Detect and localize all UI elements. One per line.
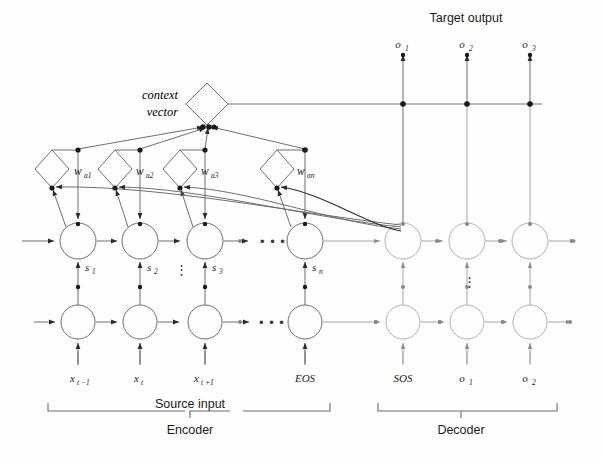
attention-weight-1-sub: a2: [146, 171, 154, 180]
encoder-vertical-ellipsis: ⋮: [175, 262, 189, 277]
attention-weight-0-sub: a1: [84, 171, 92, 180]
input-label-0-sub: t −1: [77, 378, 90, 387]
encoder-label: Encoder: [167, 423, 214, 437]
source-input-label: Source input: [155, 397, 226, 411]
hidden-row-ellipsis: • • •: [260, 234, 286, 249]
input-label-4-base: SOS: [394, 372, 413, 384]
input-label-1-base: x: [133, 372, 139, 384]
input-label-0-base: x: [69, 372, 75, 384]
attention-weight-3-sub: an: [307, 171, 315, 180]
input-label-2-base: x: [193, 372, 199, 384]
input-label-6-base: o: [522, 372, 528, 384]
context-vector-label-line1: context: [142, 88, 179, 102]
target-output-0-base: o: [395, 38, 401, 50]
context-vector-label: context vector: [142, 88, 179, 119]
hidden-state-1-base: s: [147, 261, 151, 273]
target-output-2-sub: 3: [531, 44, 536, 53]
target-output-0-sub: 1: [405, 44, 409, 53]
ellipsis-marks: • • • • • • ⋮ ⋮: [175, 234, 477, 330]
input-label-1-sub: t: [141, 378, 144, 387]
target-output-2-base: o: [522, 38, 528, 50]
attention-weight-3-base: w: [297, 165, 305, 177]
hidden-state-0-sub: 1: [92, 267, 96, 276]
input-label-5-sub: 1: [469, 378, 473, 387]
context-vector-label-line2: vector: [147, 105, 178, 119]
input-label-3-base: EOS: [294, 372, 316, 384]
hidden-state-labels: s 1 s 2 s 3 s n: [85, 261, 323, 276]
target-output-1-base: o: [459, 38, 465, 50]
target-output-labels: o 1 o 2 o 3: [395, 38, 536, 53]
attention-weight-0-base: w: [74, 165, 82, 177]
target-output-heading: Target output: [430, 11, 503, 25]
hidden-state-2-base: s: [212, 261, 216, 273]
attention-weight-labels: w a1 w a2 w a3 w an: [74, 165, 315, 180]
target-output-1-sub: 2: [469, 44, 473, 53]
hidden-state-1-sub: 2: [154, 267, 158, 276]
input-row-ellipsis: • • •: [259, 315, 285, 330]
input-sequence-labels: x t −1 x t x t +1 EOS SOS o 1 o 2: [69, 372, 536, 387]
input-label-5-base: o: [459, 372, 465, 384]
attention-weight-2-sub: a3: [211, 171, 219, 180]
diagram-text-layer: Target output o 1 o 2 o 3 context vector…: [0, 0, 603, 462]
hidden-state-2-sub: 3: [218, 267, 223, 276]
hidden-state-0-base: s: [85, 261, 89, 273]
diagram-canvas: Target output o 1 o 2 o 3 context vector…: [0, 0, 603, 462]
input-label-6-sub: 2: [532, 378, 536, 387]
decoder-label: Decoder: [437, 423, 484, 437]
hidden-state-3-base: s: [312, 261, 316, 273]
decoder-vertical-ellipsis: ⋮: [463, 274, 477, 289]
hidden-state-3-sub: n: [319, 267, 323, 276]
input-label-2-sub: t +1: [201, 378, 214, 387]
attention-weight-2-base: w: [201, 165, 209, 177]
attention-weight-1-base: w: [136, 165, 144, 177]
